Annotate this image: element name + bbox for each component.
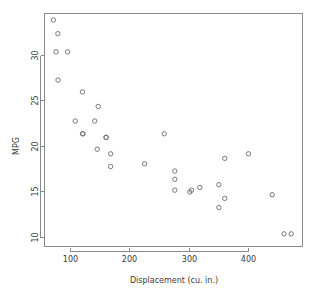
- data-point: [108, 152, 112, 156]
- data-point: [51, 18, 55, 22]
- data-point: [270, 193, 274, 197]
- data-point-layer: [51, 18, 293, 236]
- data-point: [173, 188, 177, 192]
- plot-canvas: 10 15 20 25 30 MPG 100 200 300 400 Displ…: [0, 0, 312, 294]
- y-tick-label-25: 25: [31, 95, 40, 105]
- x-tick-label-400: 400: [241, 255, 256, 264]
- data-point: [73, 119, 77, 123]
- data-point: [223, 156, 227, 160]
- y-tick-label-15: 15: [31, 186, 40, 196]
- data-point: [289, 232, 293, 236]
- plot-frame-box: [45, 14, 303, 247]
- x-tick-labels: 100 200 300 400: [63, 255, 256, 264]
- x-tick-label-100: 100: [63, 255, 78, 264]
- data-point: [282, 232, 286, 236]
- data-point: [65, 50, 69, 54]
- y-tick-label-30: 30: [31, 50, 40, 60]
- data-point: [80, 90, 84, 94]
- data-point: [142, 162, 146, 166]
- data-point: [223, 196, 227, 200]
- data-point: [217, 183, 221, 187]
- x-tick-label-300: 300: [182, 255, 197, 264]
- data-point: [246, 152, 250, 156]
- y-tick-labels: 10 15 20 25 30: [31, 50, 40, 242]
- y-axis-title: MPG: [12, 137, 21, 155]
- y-tick-label-20: 20: [31, 141, 40, 151]
- data-point: [56, 78, 60, 82]
- data-point: [162, 132, 166, 136]
- data-point: [95, 147, 99, 151]
- data-point: [104, 135, 108, 139]
- scatter-plot-figure: 10 15 20 25 30 MPG 100 200 300 400 Displ…: [0, 0, 312, 294]
- data-point: [217, 205, 221, 209]
- data-point: [108, 164, 112, 168]
- data-point: [173, 169, 177, 173]
- x-tick-label-200: 200: [122, 255, 137, 264]
- data-point: [54, 50, 58, 54]
- y-tick-label-10: 10: [31, 232, 40, 242]
- x-axis-title: Displacement (cu. in.): [130, 276, 218, 285]
- y-axis-ticks: [41, 56, 45, 238]
- data-point: [198, 185, 202, 189]
- data-point: [173, 177, 177, 181]
- data-point: [96, 104, 100, 108]
- x-axis-ticks: [71, 248, 249, 252]
- data-point: [93, 119, 97, 123]
- data-point: [56, 31, 60, 35]
